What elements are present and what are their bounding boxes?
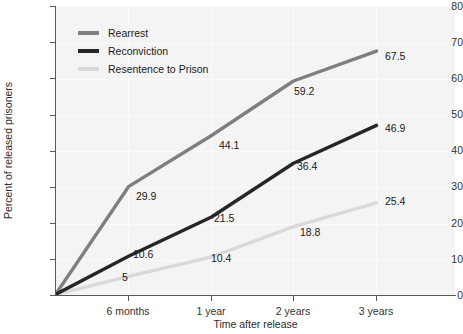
legend-item-rearrest[interactable]: Rearrest — [78, 24, 208, 42]
data-label-resentence-2yr: 18.8 — [300, 227, 320, 238]
y-tick — [50, 151, 55, 152]
y-tick — [50, 259, 55, 260]
y-tick-label: 0 — [421, 290, 463, 301]
legend-item-label: Rearrest — [108, 27, 148, 39]
legend: Rearrest Reconviction Resentence to Pris… — [78, 24, 208, 78]
y-tick-label: 40 — [421, 145, 463, 156]
legend-swatch-icon — [78, 31, 99, 35]
x-tick — [293, 296, 294, 301]
legend-item-resentence-to-prison[interactable]: Resentence to Prison — [78, 60, 208, 78]
x-tick-label: 1 year — [196, 305, 225, 317]
x-tick-label: 6 months — [106, 305, 149, 317]
legend-swatch-icon — [78, 67, 99, 71]
x-tick — [128, 296, 129, 301]
y-tick — [50, 187, 55, 188]
y-axis-line — [55, 6, 56, 296]
y-tick-label: 30 — [421, 181, 463, 192]
data-label-rearrest-1yr: 44.1 — [219, 140, 239, 151]
data-label-resentence-6mo: 5 — [122, 272, 128, 283]
y-tick-label: 50 — [421, 109, 463, 120]
y-tick — [50, 6, 55, 7]
data-label-resentence-1yr: 10.4 — [211, 253, 231, 264]
y-tick-label: 20 — [421, 218, 463, 229]
x-axis-line — [55, 295, 456, 296]
chart-figure: 80 70 60 50 40 30 20 10 0 6 months 1 yea… — [0, 0, 463, 334]
x-tick-label: 2 years — [276, 305, 310, 317]
legend-item-label: Resentence to Prison — [108, 63, 208, 75]
line-reconviction — [56, 125, 377, 294]
x-tick-label: 3 years — [359, 305, 393, 317]
y-tick — [50, 42, 55, 43]
data-label-reconviction-6mo: 10.6 — [133, 249, 153, 260]
y-axis-title: Percent of released prisoners — [2, 6, 16, 295]
y-tick-label: 70 — [421, 37, 463, 48]
data-label-reconviction-3yr: 46.9 — [385, 123, 405, 134]
legend-item-reconviction[interactable]: Reconviction — [78, 42, 208, 60]
y-tick-label: 10 — [421, 254, 463, 265]
data-label-rearrest-6mo: 29.9 — [136, 191, 156, 202]
x-tick — [376, 296, 377, 301]
y-tick-label: 60 — [421, 73, 463, 84]
legend-swatch-icon — [78, 49, 99, 53]
y-tick — [50, 295, 55, 296]
legend-item-label: Reconviction — [108, 45, 168, 57]
y-tick — [50, 78, 55, 79]
data-label-rearrest-3yr: 67.5 — [385, 51, 405, 62]
y-tick-label: 80 — [421, 1, 463, 12]
data-label-rearrest-2yr: 59.2 — [294, 86, 314, 97]
data-label-resentence-3yr: 25.4 — [385, 196, 405, 207]
data-label-reconviction-2yr: 36.4 — [297, 161, 317, 172]
y-tick — [50, 223, 55, 224]
data-label-reconviction-1yr: 21.5 — [214, 213, 234, 224]
x-tick — [211, 296, 212, 301]
y-tick — [50, 115, 55, 116]
x-axis-title: Time after release — [56, 318, 455, 330]
